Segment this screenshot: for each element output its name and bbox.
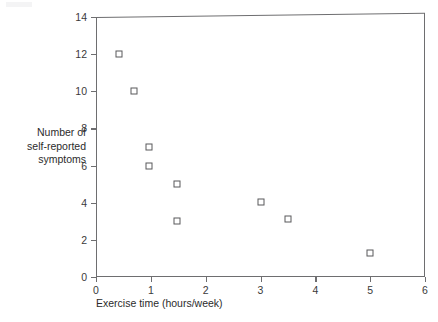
y-tick-label: 0 <box>81 272 87 283</box>
x-axis-title: Exercise time (hours/week) <box>96 297 223 309</box>
x-tick-label: 2 <box>203 285 209 296</box>
x-tick-mark <box>151 277 152 282</box>
y-tick-label: 12 <box>75 49 87 60</box>
y-axis-title-line-1: Number of <box>8 126 86 140</box>
y-tick-label: 4 <box>81 197 87 208</box>
top-frame-line <box>96 13 425 18</box>
x-tick-mark <box>206 277 207 282</box>
x-tick-mark <box>425 277 426 282</box>
x-tick-label: 3 <box>258 285 264 296</box>
y-tick-label: 10 <box>75 86 87 97</box>
y-axis-title-line-3: symptoms <box>8 153 86 167</box>
y-axis-title-line-2: self-reported <box>8 140 86 154</box>
y-tick-label: 6 <box>81 160 87 171</box>
x-tick-mark <box>261 277 262 282</box>
y-tick-label: 2 <box>81 235 87 246</box>
plot-area: 02468101214 0123456 <box>96 13 425 277</box>
scan-artifact <box>6 2 32 7</box>
scatter-plot-figure: Number of self-reported symptoms 0246810… <box>0 0 438 322</box>
y-tick-mark <box>91 17 96 18</box>
data-point <box>257 198 264 205</box>
x-tick-mark <box>96 277 97 282</box>
y-tick-label: 8 <box>81 123 87 134</box>
y-tick-mark <box>91 166 96 167</box>
data-point <box>284 215 291 222</box>
data-point <box>146 162 153 169</box>
data-point <box>131 88 138 95</box>
x-tick-label: 6 <box>422 285 428 296</box>
y-tick-mark <box>91 91 96 92</box>
right-frame-line <box>424 13 425 277</box>
x-tick-mark <box>315 277 316 282</box>
y-tick-mark <box>91 128 96 129</box>
x-tick-label: 0 <box>93 285 99 296</box>
x-tick-label: 4 <box>312 285 318 296</box>
data-point <box>116 51 123 58</box>
data-point <box>146 144 153 151</box>
y-axis-title: Number of self-reported symptoms <box>8 126 86 167</box>
x-tick-label: 1 <box>148 285 154 296</box>
data-point <box>174 181 181 188</box>
x-tick-label: 5 <box>367 285 373 296</box>
data-point <box>174 218 181 225</box>
x-tick-mark <box>370 277 371 282</box>
data-point <box>367 249 374 256</box>
y-tick-mark <box>91 203 96 204</box>
y-tick-mark <box>91 54 96 55</box>
y-tick-mark <box>91 240 96 241</box>
y-axis-line <box>96 17 97 277</box>
y-tick-label: 14 <box>75 12 87 23</box>
